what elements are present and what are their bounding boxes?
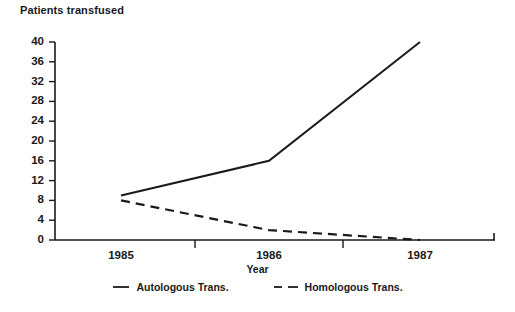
- series-line-homologous: [121, 200, 420, 240]
- y-tick-label: 28: [16, 94, 44, 106]
- y-tick-label: 32: [16, 75, 44, 87]
- y-tick-marks: [49, 42, 55, 240]
- x-tick-label-1986: 1986: [234, 249, 304, 261]
- y-tick-label: 8: [16, 193, 44, 205]
- y-tick-label: 0: [16, 233, 44, 245]
- x-tick-label-1985: 1985: [86, 249, 156, 261]
- y-tick-label: 20: [16, 134, 44, 146]
- x-tick-marks: [195, 240, 343, 248]
- legend-label-homologous: Homologous Trans.: [305, 281, 403, 293]
- chart-legend: Autologous Trans. Homologous Trans.: [0, 281, 515, 293]
- legend-label-autologous: Autologous Trans.: [136, 281, 228, 293]
- x-tick-label-1987: 1987: [385, 249, 455, 261]
- series-line-autologous: [121, 42, 420, 196]
- chart-figure: Patients transfused: [0, 0, 515, 312]
- y-tick-label: 40: [16, 35, 44, 47]
- y-tick-label: 36: [16, 55, 44, 67]
- legend-swatch-solid-icon: [112, 282, 130, 292]
- y-tick-label: 16: [16, 154, 44, 166]
- legend-entry-homologous: Homologous Trans.: [273, 281, 403, 293]
- y-tick-label: 24: [16, 114, 44, 126]
- legend-entry-autologous: Autologous Trans.: [112, 281, 228, 293]
- x-axis-title: Year: [0, 263, 515, 275]
- y-tick-label: 12: [16, 174, 44, 186]
- y-tick-label: 4: [16, 213, 44, 225]
- legend-swatch-dashed-icon: [273, 282, 299, 292]
